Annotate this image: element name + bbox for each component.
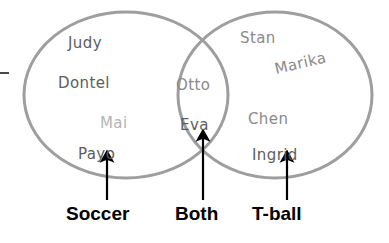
- label-both: Both: [175, 204, 218, 223]
- member-otto: Otto: [176, 78, 210, 93]
- member-chen: Chen: [248, 112, 288, 127]
- member-ingrid: Ingrid: [252, 148, 298, 163]
- label-tball: T-ball: [252, 204, 302, 223]
- member-judy: Judy: [68, 36, 102, 51]
- circle-soccer: [24, 12, 228, 178]
- edge-artifact-dash: [0, 72, 9, 74]
- label-soccer: Soccer: [66, 204, 129, 223]
- member-stan: Stan: [240, 31, 276, 46]
- member-payo: Payo: [78, 147, 115, 162]
- venn-diagram-figure: Judy Dontel Mai Payo Otto Eva Stan Marik…: [0, 0, 389, 243]
- member-dontel: Dontel: [58, 76, 110, 91]
- member-eva: Eva: [180, 118, 209, 133]
- member-mai: Mai: [100, 116, 128, 131]
